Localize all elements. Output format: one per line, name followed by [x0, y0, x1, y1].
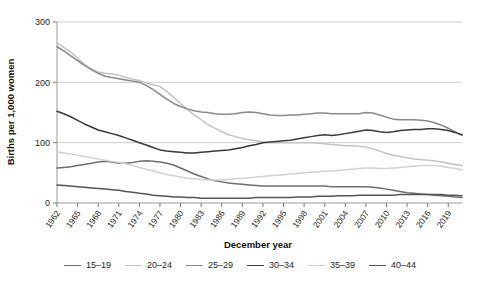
y-tick-label: 200 — [35, 78, 50, 88]
legend-item-20-24[interactable]: 20–24 — [125, 260, 172, 270]
data-series-lines — [57, 43, 462, 198]
x-tick-label: 1992 — [249, 208, 268, 229]
x-tick-label: 1986 — [208, 208, 227, 229]
y-tick-label: 100 — [35, 138, 50, 148]
x-axis-ticks — [57, 203, 448, 207]
x-tick-label: 1983 — [187, 208, 206, 229]
legend-color-swatch — [186, 265, 203, 266]
x-tick-label: 1971 — [105, 208, 124, 229]
x-tick-label: 1995 — [270, 208, 289, 229]
x-tick-label: 1962 — [43, 208, 62, 229]
legend-item-label: 15–19 — [86, 260, 111, 270]
legend-color-swatch — [369, 265, 386, 266]
legend-item-25-29[interactable]: 25–29 — [186, 260, 233, 270]
x-tick-label: 1965 — [64, 208, 83, 229]
x-tick-label: 1989 — [228, 208, 247, 229]
y-tick-label: 0 — [45, 198, 50, 208]
x-tick-label: 2013 — [393, 208, 412, 229]
series-line-20-24 — [57, 43, 462, 165]
legend-color-swatch — [308, 265, 325, 266]
x-tick-label: 2007 — [352, 208, 371, 229]
births-rate-line-chart: 0100200300 19621965196819711974197719801… — [0, 0, 480, 290]
legend-item-35-39[interactable]: 35–39 — [308, 260, 355, 270]
y-axis-title: Births per 1,000 women — [5, 58, 16, 165]
legend-item-label: 35–39 — [330, 260, 355, 270]
series-line-30-34 — [57, 111, 462, 153]
legend-item-label: 20–24 — [147, 260, 172, 270]
x-tick-label: 2016 — [414, 208, 433, 229]
legend-item-15-19[interactable]: 15–19 — [64, 260, 111, 270]
legend-color-swatch — [247, 265, 264, 266]
chart-plot-area: 0100200300 19621965196819711974197719801… — [0, 0, 480, 255]
legend-color-swatch — [64, 265, 81, 266]
x-tick-label: 1998 — [290, 208, 309, 229]
x-tick-label: 2004 — [331, 208, 350, 229]
x-axis-title: December year — [224, 239, 292, 250]
legend-item-30-34[interactable]: 30–34 — [247, 260, 294, 270]
x-tick-label: 1968 — [84, 208, 103, 229]
x-tick-label: 1974 — [125, 208, 144, 229]
legend-color-swatch — [125, 265, 142, 266]
x-axis-tick-labels: 1962196519681971197419771980198319861989… — [43, 208, 453, 229]
y-tick-label: 300 — [35, 17, 50, 27]
legend-item-label: 40–44 — [391, 260, 416, 270]
chart-legend: 15–1920–2425–2930–3435–3940–44 — [0, 255, 480, 275]
x-tick-label: 2001 — [311, 208, 330, 229]
legend-item-40-44[interactable]: 40–44 — [369, 260, 416, 270]
series-line-25-29 — [57, 47, 462, 136]
legend-item-label: 25–29 — [208, 260, 233, 270]
x-tick-label: 2010 — [373, 208, 392, 229]
series-line-15-19 — [57, 161, 462, 198]
legend-item-label: 30–34 — [269, 260, 294, 270]
y-axis-tick-labels: 0100200300 — [35, 17, 57, 208]
x-tick-label: 1980 — [167, 208, 186, 229]
x-tick-label: 2019 — [434, 208, 453, 229]
x-tick-label: 1977 — [146, 208, 165, 229]
